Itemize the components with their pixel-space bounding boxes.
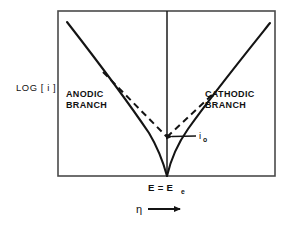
exchange-current-subscript: o [203,136,207,143]
anodic-branch-label-line1: ANODIC [66,89,104,99]
y-axis-label: LOG [ i ] [16,82,56,93]
cathodic-branch-label-line2: BRANCH [205,100,246,110]
exchange-current-leader-line [172,136,196,137]
anodic-branch-label-line2: BRANCH [66,100,107,110]
exchange-current-label: i [199,130,201,141]
equilibrium-potential-subscript: e [181,188,185,195]
eta-axis-label: η [136,203,142,215]
tafel-plot-figure: LOG [ i ] ANODIC BRANCH CATHODIC BRANCH … [0,0,292,226]
cathodic-branch-label-line1: CATHODIC [205,89,255,99]
equilibrium-potential-label: E = E [148,182,174,193]
tafel-plot-svg: LOG [ i ] ANODIC BRANCH CATHODIC BRANCH … [0,0,292,226]
